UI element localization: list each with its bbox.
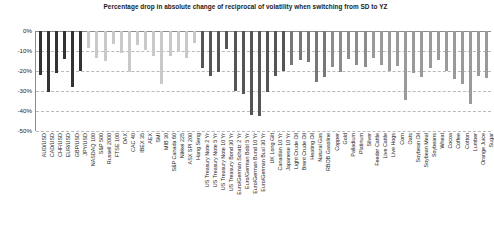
bar [234,31,237,91]
bar [299,31,302,60]
x-tick-label: Natural Gas [318,133,323,162]
x-tick-label: Orange Juice [481,133,486,165]
bar [144,31,147,50]
bar [282,31,285,71]
bar [290,31,293,65]
bar [485,31,488,78]
bar [380,31,383,65]
x-tick-label: NASDAQ 100 [91,133,96,166]
x-tick-label: Gold [343,133,348,144]
bar [160,31,163,84]
bar [347,31,350,59]
x-tick-label: ASX SPI 200 [188,133,193,164]
bar [201,31,204,68]
bar [152,31,155,56]
bar [323,31,326,77]
bar [95,31,98,58]
x-tick-label: RBOB Gasoline [326,133,331,171]
x-tick-label: Hang Seng [196,133,201,160]
bar [420,31,423,77]
x-tick-label: Light Crude Oil [294,133,299,169]
bar [331,31,334,67]
x-tick-label: S&P Canada 60 [172,133,177,172]
bar [225,31,228,49]
x-tick-label: Lumber [473,133,478,151]
x-tick-label: CAC 40 [131,133,136,152]
x-tick-label: Japanese 10 Yr [286,133,291,171]
bar [315,31,318,82]
x-tick-label: Euro/German Schatz 2 Yr [237,133,242,195]
bar [169,31,172,56]
bar [355,31,358,65]
bar [429,31,432,68]
bar [437,31,440,60]
x-tick-label: DAX [123,133,128,144]
bar [274,31,277,76]
bar [39,31,42,75]
chart-title: Percentage drop in absolute change of re… [0,3,491,10]
x-tick-label: CHF/USD [58,133,63,157]
x-tick-label: Euro/German Bobl 5 Yr [245,133,250,189]
bar [63,31,66,59]
y-tick-label: -40% [0,108,32,114]
x-tick-label: UK Long Gilt [270,133,275,164]
bar [396,31,399,66]
x-tick-label: US Treasury Note 5 Yr [213,133,218,187]
x-tick-label: Oats [408,133,413,144]
bar [136,31,139,45]
x-tick-label: Canadian 10 Yr [278,133,283,170]
x-axis-labels: AUD/USDCAD/USDCHF/USDEUR/USDGBP/USDJPY/U… [36,133,491,236]
bar [104,31,107,61]
x-tick-label: Euro/German Bund 10 Yr [253,133,258,194]
bar [412,31,415,73]
y-tick-label: -50% [0,128,32,134]
x-tick-label: Soybeans [432,133,437,157]
bar [242,31,245,94]
bar [55,31,58,73]
x-tick-label: CAD/USD [50,133,55,157]
x-tick-label: Wheat [440,133,445,149]
bar [372,31,375,58]
x-tick-label: Brent Crude Oil [302,133,307,170]
x-tick-label: Palladium [351,133,356,157]
bar [364,31,367,67]
bar [477,31,480,76]
bar [445,31,448,71]
x-tick-label: Soybean Oil [416,133,421,162]
y-tick-label: 0% [0,28,32,34]
bar [128,31,131,72]
x-tick-label: Copper [335,133,340,151]
bar [47,31,50,92]
x-tick-label: GBP/USD [75,133,80,157]
plot-area [36,31,491,131]
bar [388,31,391,71]
x-tick-label: Russell 2000 [107,133,112,164]
bar [177,31,180,52]
bar [112,31,115,44]
x-tick-label: Cotton [465,133,470,149]
bar [250,31,253,115]
bar [266,31,269,92]
bar [79,31,82,71]
x-tick-label: US Treasury Bond 30 Yr [229,133,234,191]
x-tick-label: Soybean Meal [424,133,429,167]
x-tick-label: Silver [367,133,372,146]
x-tick-label: FTSE 100 [115,133,120,157]
bar [71,31,74,87]
x-tick-label: AUD/USD [42,133,47,157]
x-tick-label: Corn [400,133,405,145]
y-tick-label: -30% [0,88,32,94]
x-tick-label: S&P 500 [99,133,104,154]
bar [339,31,342,72]
bar [209,31,212,76]
x-tick-label: IBEX 35 [140,133,145,153]
x-tick-label: US Treasury Note 10 Yr [221,133,226,190]
gridline [36,91,491,92]
x-tick-label: AEX [148,133,153,144]
x-tick-label: Heating Oil [310,133,315,160]
x-tick-label: Live Hogs [391,133,396,157]
y-tick-label: -20% [0,68,32,74]
x-tick-label: US Treasury Note 2 Yr [205,133,210,187]
bar [185,31,188,58]
x-tick-label: Platinum [359,133,364,154]
